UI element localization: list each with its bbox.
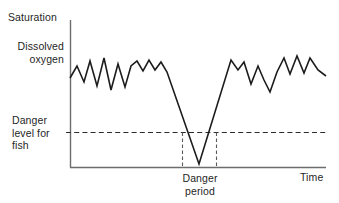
oxygen-sag-chart: Saturation Dissolved oxygen Danger level… (0, 0, 339, 203)
dissolved-oxygen-series-line (70, 56, 326, 164)
danger-period-label: Danger period (170, 172, 230, 197)
saturation-label: Saturation (8, 11, 57, 24)
danger-level-for-fish-label: Danger level for fish (12, 114, 68, 152)
time-axis-label: Time (300, 171, 323, 184)
dissolved-oxygen-label: Dissolved oxygen (0, 40, 64, 65)
